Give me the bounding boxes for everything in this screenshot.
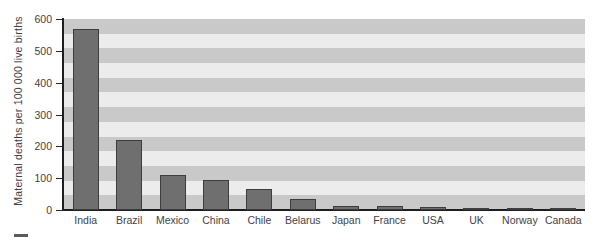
bar-japan[interactable]	[333, 206, 359, 210]
y-tick-label: 200	[22, 140, 52, 152]
y-tick	[56, 51, 63, 52]
y-tick	[56, 115, 63, 116]
grid-band	[64, 137, 585, 152]
category-label-chile: Chile	[247, 214, 271, 226]
bar-china[interactable]	[203, 180, 229, 210]
category-label-uk: UK	[469, 214, 484, 226]
bar-france[interactable]	[377, 206, 403, 210]
bar-norway[interactable]	[507, 208, 533, 210]
y-tick	[56, 146, 63, 147]
grid-band	[64, 19, 585, 34]
y-tick-label: 300	[22, 109, 52, 121]
plot-area	[64, 19, 585, 210]
category-label-japan: Japan	[332, 214, 361, 226]
footer-mark	[14, 234, 28, 237]
category-label-france: France	[373, 214, 406, 226]
category-label-india: India	[74, 214, 97, 226]
y-tick-label: 400	[22, 77, 52, 89]
category-label-norway: Norway	[502, 214, 538, 226]
grid-band	[64, 107, 585, 122]
bar-mexico[interactable]	[160, 175, 186, 210]
y-tick-label: 0	[22, 204, 52, 216]
y-tick	[56, 83, 63, 84]
grid-band	[64, 78, 585, 93]
category-label-brazil: Brazil	[116, 214, 142, 226]
bar-chile[interactable]	[246, 189, 272, 210]
grid-band	[64, 48, 585, 63]
category-label-china: China	[202, 214, 229, 226]
y-tick	[56, 19, 63, 20]
bar-india[interactable]	[73, 29, 99, 210]
category-label-canada: Canada	[545, 214, 582, 226]
y-tick-label: 100	[22, 172, 52, 184]
y-tick	[56, 210, 63, 211]
bar-canada[interactable]	[550, 208, 576, 210]
category-label-belarus: Belarus	[285, 214, 321, 226]
y-tick-label: 500	[22, 45, 52, 57]
bar-uk[interactable]	[463, 208, 489, 210]
category-label-mexico: Mexico	[156, 214, 189, 226]
grid-band	[64, 166, 585, 181]
bar-chart-figure: Maternal deaths per 100 000 live births …	[0, 0, 600, 245]
bar-brazil[interactable]	[116, 140, 142, 210]
bar-belarus[interactable]	[290, 199, 316, 210]
bar-usa[interactable]	[420, 207, 446, 210]
y-tick	[56, 178, 63, 179]
y-tick-label: 600	[22, 13, 52, 25]
category-label-usa: USA	[422, 214, 444, 226]
